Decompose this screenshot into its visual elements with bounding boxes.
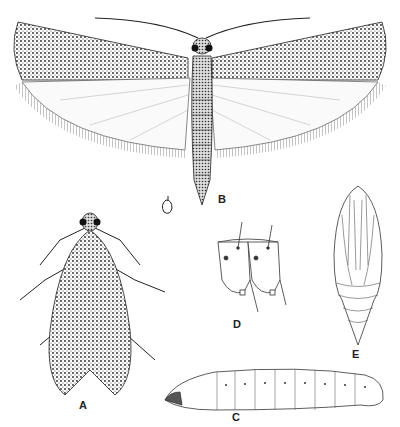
scale-mark [162, 196, 172, 213]
label-d: D [233, 318, 241, 330]
figure-e-pupa [334, 186, 382, 345]
figure-a-resting-moth [20, 213, 165, 395]
figure-d-segment-detail [218, 222, 286, 312]
illustration-plate [0, 0, 400, 427]
label-c: C [232, 411, 240, 423]
label-b: B [218, 193, 226, 205]
label-a: A [79, 399, 87, 411]
figure-b-spread-moth [14, 18, 386, 205]
figure-c-larva [165, 369, 383, 410]
label-e: E [352, 348, 359, 360]
